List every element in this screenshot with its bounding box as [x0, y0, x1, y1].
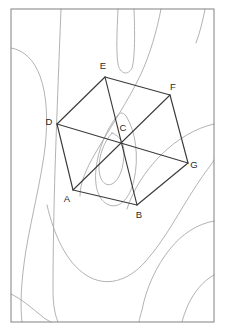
diagonal-B-E [105, 77, 137, 205]
vertex-label-c: C [120, 122, 127, 133]
contour-bottom-left-diagonal [11, 294, 51, 322]
contour-bottom-right-arc [182, 275, 214, 322]
vertex-label-b: B [136, 209, 142, 220]
contour-mid-oval [96, 113, 137, 206]
vertex-label-g: G [190, 159, 197, 170]
frame-layer [11, 9, 214, 322]
contour-left-vertical [53, 9, 61, 322]
vertex-label-f: F [170, 81, 176, 92]
contour-left-bulge [11, 48, 47, 322]
edge-E-F [105, 77, 170, 95]
edge-F-G [170, 95, 188, 163]
edge-A-D [57, 124, 73, 190]
contour-layer [11, 9, 214, 322]
geometry-diagram: ABCDEFG [0, 0, 226, 332]
contour-right-lower-sweep [139, 221, 214, 322]
contour-upper-right-edge [196, 9, 205, 43]
polygon-diagonal-layer [57, 77, 188, 205]
figure-container: ABCDEFG [0, 0, 226, 332]
vertex-label-d: D [46, 116, 53, 127]
vertex-label-a: A [64, 193, 71, 204]
vertex-label-layer: ABCDEFG [46, 60, 198, 220]
contour-top-narrow-loop [117, 9, 135, 73]
edge-G-B [137, 163, 188, 205]
contour-right-upper-sweep [127, 124, 214, 209]
edge-D-E [57, 77, 105, 124]
vertex-label-e: E [100, 60, 106, 71]
figure-border [11, 9, 214, 322]
